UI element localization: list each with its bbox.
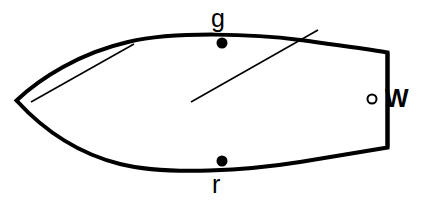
red-light-marker-dot bbox=[217, 156, 228, 167]
white-light-marker-circle bbox=[368, 95, 377, 104]
diagram-canvas: g r W bbox=[0, 0, 421, 201]
red-light-label: r bbox=[212, 172, 220, 197]
hull-outline-path bbox=[17, 35, 388, 171]
inner-sheer-line bbox=[31, 44, 134, 102]
green-light-marker-dot bbox=[217, 38, 228, 49]
bearing-line bbox=[191, 30, 318, 102]
green-light-label: g bbox=[211, 6, 225, 31]
white-light-label: W bbox=[385, 86, 409, 111]
